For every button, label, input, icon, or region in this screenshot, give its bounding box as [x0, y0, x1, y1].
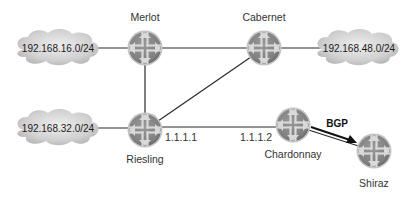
- router-shiraz: Shiraz: [357, 134, 392, 190]
- router-label: Riesling: [126, 153, 164, 165]
- interface-label-chardonnay: 1.1.1.2: [240, 131, 272, 143]
- network-label: 192.168.48.0/24: [323, 43, 396, 54]
- router-icon: [247, 31, 282, 66]
- cloud-net16: 192.168.16.0/24: [17, 29, 98, 65]
- router-cabernet: Cabernet: [242, 11, 285, 66]
- bgp-annotation: BGP: [311, 118, 357, 143]
- router-riesling: Riesling: [126, 113, 164, 166]
- router-label: Cabernet: [242, 11, 285, 23]
- network-diagram: 192.168.16.0/24 192.168.48.0/24 192.168.…: [0, 0, 419, 203]
- router-icon: [276, 108, 311, 143]
- router-icon: [357, 134, 392, 169]
- network-label: 192.168.16.0/24: [22, 43, 95, 54]
- router-icon: [128, 31, 163, 66]
- router-label: Merlot: [130, 11, 159, 23]
- router-label: Chardonnay: [264, 148, 322, 160]
- cloud-net32: 192.168.32.0/24: [17, 109, 98, 145]
- link-riesling-cabernet: [145, 48, 264, 130]
- bgp-label: BGP: [326, 118, 348, 129]
- router-chardonnay: Chardonnay: [264, 108, 322, 161]
- cloud-net48: 192.168.48.0/24: [317, 29, 398, 65]
- network-label: 192.168.32.0/24: [22, 123, 95, 134]
- router-icon: [128, 113, 163, 148]
- interface-label-riesling: 1.1.1.1: [165, 131, 197, 143]
- router-merlot: Merlot: [128, 11, 163, 66]
- router-label: Shiraz: [359, 177, 389, 189]
